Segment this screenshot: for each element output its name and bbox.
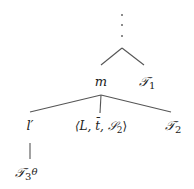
edge-m-lprime: [30, 95, 101, 112]
node-tuple: ⟨L, t̄, 𝒮2⟩: [75, 117, 127, 135]
tree-diagram: m 𝒯1 l′ ⟨L, t̄, 𝒮2⟩ 𝒯2 𝒯3θ: [0, 0, 194, 189]
node-m: m: [95, 74, 107, 89]
edge-m-t2: [101, 95, 171, 112]
node-t1: 𝒯1: [139, 74, 155, 91]
node-t2: 𝒯2: [165, 118, 181, 135]
node-l-prime: l′: [26, 118, 33, 133]
edge-top-t1: [122, 48, 144, 65]
edge-m-tuple: [100, 95, 101, 113]
continuation-dots: [121, 14, 123, 37]
node-t3-theta: 𝒯3θ: [15, 165, 37, 182]
edge-top-m: [101, 48, 122, 65]
